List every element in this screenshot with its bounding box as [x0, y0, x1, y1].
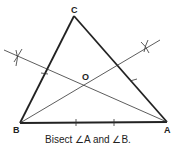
tick-cb [41, 73, 48, 74]
construction-diagram: C B A O Bisect ∠A and ∠B. [0, 0, 177, 148]
side-ca [74, 16, 167, 122]
bisector-a [4, 50, 167, 122]
side-ba [20, 122, 167, 123]
vertex-label-a: A [164, 125, 171, 135]
vertex-label-c: C [71, 5, 78, 15]
arc-mark-bisector-b [141, 40, 149, 53]
caption: Bisect ∠A and ∠B. [45, 134, 131, 145]
incenter-label-o: O [82, 72, 89, 82]
vertex-label-b: B [13, 125, 20, 135]
